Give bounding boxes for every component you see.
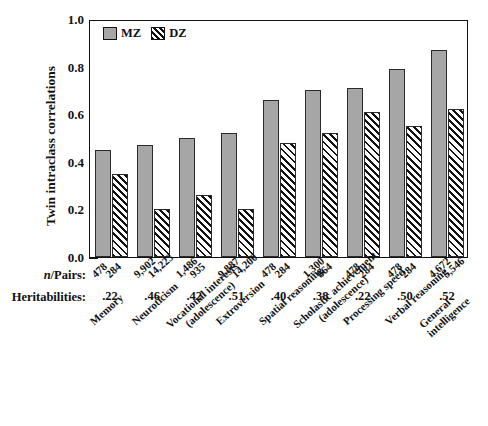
bar-mz-0 bbox=[95, 150, 111, 257]
y-axis-title: Twin intraclass correlations bbox=[43, 21, 59, 271]
legend: MZ DZ bbox=[103, 26, 193, 41]
y-tick-label: 1.0 bbox=[50, 12, 84, 28]
npairs-suffix: /Pairs: bbox=[51, 268, 86, 282]
bar-dz-5 bbox=[322, 133, 338, 257]
npairs-dz-4: 284 bbox=[271, 260, 291, 280]
heritabilities-row-label: Heritabilities: bbox=[0, 290, 86, 305]
y-tick-label: 0.6 bbox=[50, 107, 84, 123]
bar-dz-2 bbox=[196, 195, 212, 257]
bar-mz-2 bbox=[179, 138, 195, 257]
bar-dz-7 bbox=[406, 126, 422, 257]
bar-mz-6 bbox=[347, 88, 363, 257]
y-tick-label: 0.8 bbox=[50, 60, 84, 76]
bar-dz-0 bbox=[112, 174, 128, 257]
legend-swatch-dz bbox=[151, 27, 165, 40]
npairs-row-label: n/Pairs: bbox=[0, 268, 86, 283]
npairs-prefix: n bbox=[44, 268, 51, 282]
y-tick-label: 0.4 bbox=[50, 155, 84, 171]
bar-mz-3 bbox=[221, 133, 237, 257]
bar-mz-5 bbox=[305, 90, 321, 257]
bar-dz-4 bbox=[280, 143, 296, 257]
legend-label-dz: DZ bbox=[169, 26, 186, 41]
bar-dz-3 bbox=[238, 209, 254, 257]
npairs-dz-0: 284 bbox=[103, 260, 123, 280]
y-tick-label: 0.0 bbox=[50, 250, 84, 266]
twin-correlation-bar-chart: Twin intraclass correlations 0.00.20.40.… bbox=[0, 0, 488, 426]
bar-mz-8 bbox=[431, 50, 447, 257]
bar-mz-4 bbox=[263, 100, 279, 257]
legend-label-mz: MZ bbox=[121, 26, 141, 41]
y-tick-major bbox=[89, 258, 98, 259]
bar-mz-1 bbox=[137, 145, 153, 257]
bar-dz-8 bbox=[448, 109, 464, 257]
bar-mz-7 bbox=[389, 69, 405, 257]
y-tick-label: 0.2 bbox=[50, 202, 84, 218]
bar-dz-6 bbox=[364, 112, 380, 257]
legend-swatch-mz bbox=[103, 27, 117, 40]
plot-area bbox=[89, 20, 468, 258]
